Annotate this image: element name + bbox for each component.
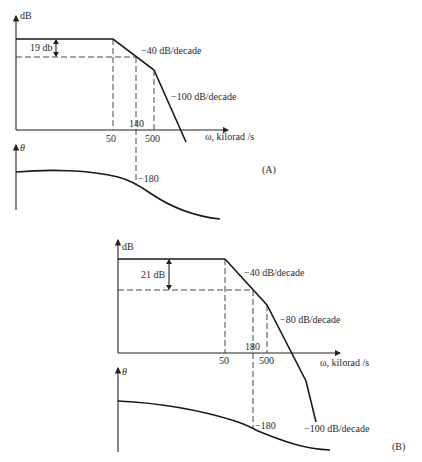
theta-axis-label-b: θ	[122, 366, 127, 377]
db-axis-label-a: dB	[20, 10, 32, 21]
gain-margin-label-a: 19 db	[30, 42, 53, 53]
diagram-b: dB ω, kilorad /s 21 dB −40 dB/decade −80…	[118, 240, 405, 453]
phase-marker-a: −180	[138, 173, 159, 184]
omega-axis-label-a: ω, kilorad /s	[205, 131, 254, 142]
arrow-down-icon	[166, 285, 172, 290]
slope-label-b-1: −40 dB/decade	[244, 267, 305, 278]
tick-500-b: 500	[259, 355, 274, 366]
arrow-down-icon	[53, 52, 59, 57]
tick-180-b: 180	[245, 341, 260, 352]
phase-curve-b	[118, 401, 330, 450]
slope-label-b-2: −80 dB/decade	[280, 314, 341, 325]
bode-diagrams: dB ω, kilorad /s 19 db −40 dB/decade −10…	[0, 0, 422, 462]
slope-label-a-2: −100 dB/decade	[171, 91, 237, 102]
tick-50-b: 50	[219, 355, 229, 366]
slope-label-a-1: −40 dB/decade	[141, 45, 202, 56]
phase-marker-b: −180	[255, 420, 276, 431]
diagram-label-b: (B)	[392, 441, 405, 453]
tick-140-a: 140	[129, 118, 144, 129]
tick-500-a: 500	[145, 133, 160, 144]
diagram-label-a: (A)	[262, 164, 276, 176]
magnitude-curve-b	[118, 259, 316, 422]
omega-axis-label-b: ω, kilorad /s	[320, 357, 369, 368]
db-axis-label-b: dB	[122, 241, 134, 252]
gain-margin-label-b: 21 dB	[141, 269, 166, 280]
diagram-a: dB ω, kilorad /s 19 db −40 dB/decade −10…	[16, 10, 276, 219]
theta-axis-label-a: θ	[20, 142, 25, 153]
slope-label-b-3: −100 dB/decade	[304, 423, 370, 434]
tick-50-a: 50	[106, 133, 116, 144]
phase-curve-a	[16, 170, 220, 219]
